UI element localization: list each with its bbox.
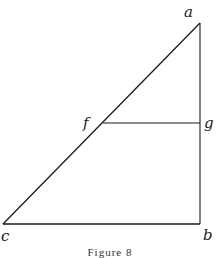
figure-caption: Figure 8 [0, 246, 220, 258]
label-f: f [82, 114, 91, 132]
label-c: c [1, 227, 10, 245]
label-g: g [204, 114, 214, 132]
label-b: b [203, 226, 213, 244]
label-a: a [184, 3, 193, 21]
